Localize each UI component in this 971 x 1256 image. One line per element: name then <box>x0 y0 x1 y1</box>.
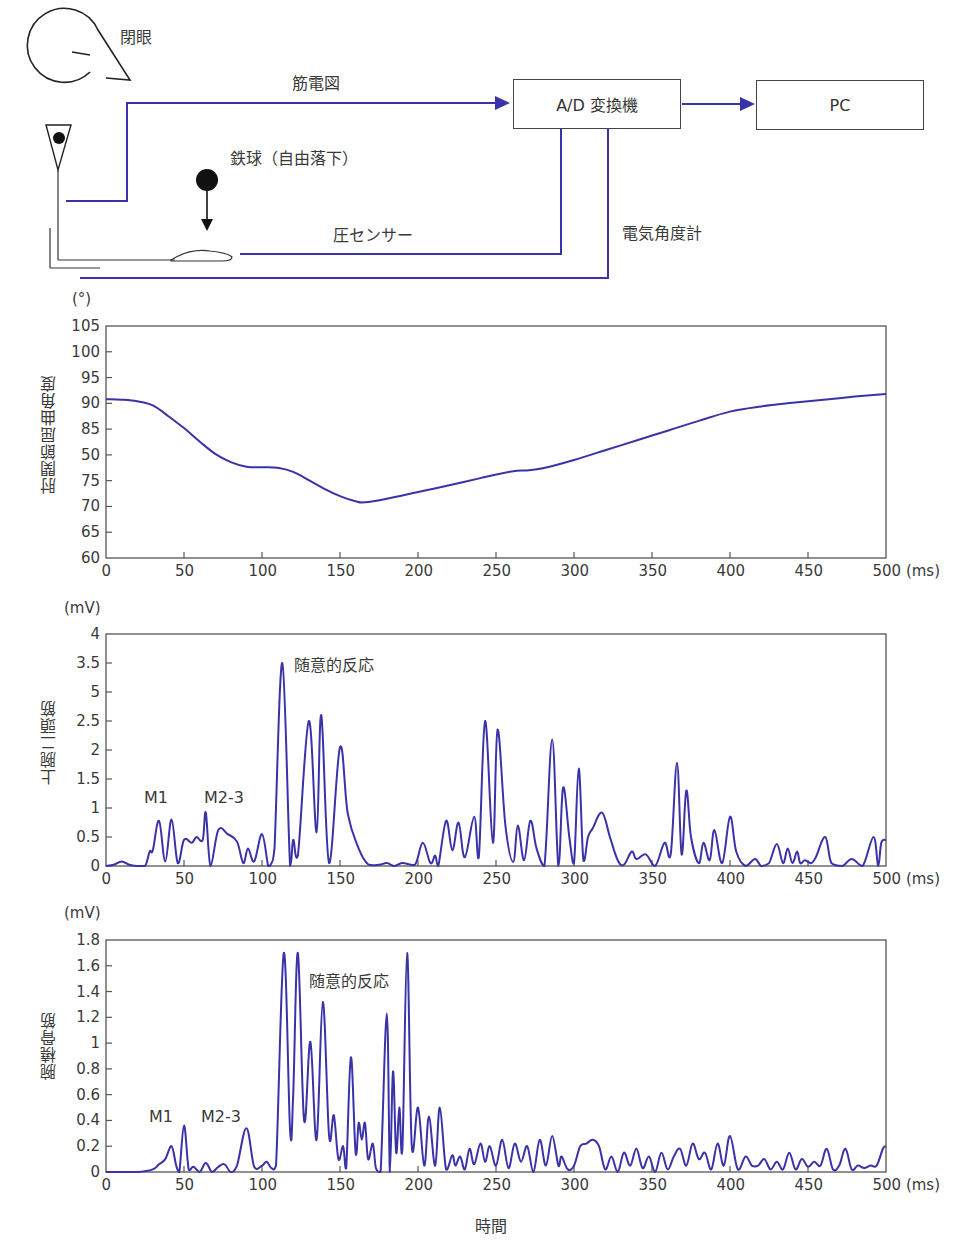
plot-frame <box>106 940 886 1172</box>
m2-3-annotation: M2-3 <box>201 1107 241 1126</box>
data-series-line <box>106 953 886 1172</box>
voluntary-response-annotation: 随意的反応 <box>309 968 389 992</box>
m1-annotation: M1 <box>149 1107 173 1126</box>
x-axis-title: 時間 <box>475 1213 507 1237</box>
